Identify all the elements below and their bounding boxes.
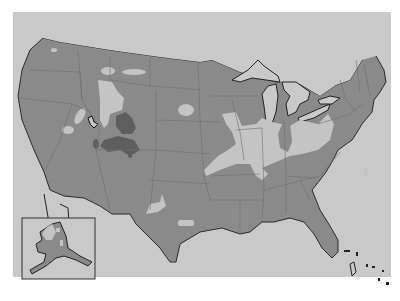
us-map [0,0,400,301]
alaska-light-patch [56,228,60,232]
alaska-light-patch [60,240,63,246]
